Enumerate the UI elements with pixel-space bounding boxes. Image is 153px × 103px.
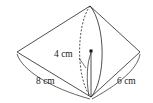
- left-top-edge: [17, 6, 90, 52]
- base-ellipse-back: [80, 6, 91, 97]
- radius-brace: [87, 53, 91, 96]
- double-cone-diagram: 4 cm 8 cm 6 cm: [0, 0, 153, 103]
- right-top-edge: [90, 6, 140, 52]
- right-bottom-edge: [91, 52, 140, 97]
- right-slant-label: 6 cm: [117, 76, 136, 86]
- radius-label: 4 cm: [54, 49, 73, 59]
- left-slant-label: 8 cm: [36, 76, 55, 86]
- center-point: [90, 50, 93, 53]
